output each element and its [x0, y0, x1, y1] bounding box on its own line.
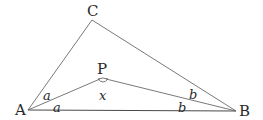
label-angle-b-upper: b	[189, 87, 197, 102]
segment-pb	[106, 79, 236, 111]
segment-cb	[92, 20, 236, 111]
label-angle-b-lower: b	[178, 100, 186, 115]
label-point-p: P	[97, 60, 107, 78]
label-angle-a-lower: a	[53, 100, 61, 115]
label-angle-a-upper: a	[43, 88, 51, 103]
angle-arc-p-top	[98, 78, 108, 79]
label-angle-x: x	[99, 88, 107, 103]
label-point-b: B	[239, 102, 250, 120]
label-point-c: C	[87, 2, 98, 20]
label-point-a: A	[14, 101, 26, 119]
triangle-diagram: A B C P a a x b b	[0, 0, 263, 120]
